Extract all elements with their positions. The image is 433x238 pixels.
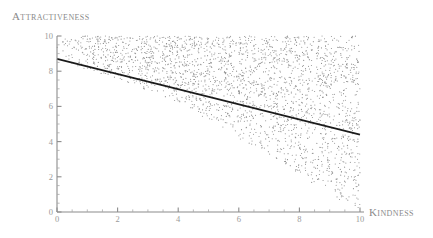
plot-canvas: Attractiveness 02468100246810 Kindness <box>0 0 433 238</box>
y-tick-label: 0 <box>49 207 53 217</box>
x-tick-label: 0 <box>55 214 59 224</box>
scatter-plot-figure: Attractiveness 02468100246810 Kindness <box>0 0 433 238</box>
scatter-points <box>57 35 361 208</box>
x-tick-label: 4 <box>176 214 181 224</box>
x-tick-label: 6 <box>237 214 241 224</box>
y-tick-label: 10 <box>45 31 54 41</box>
regression-line <box>57 59 360 135</box>
x-tick-label: 8 <box>297 214 301 224</box>
y-axis-title: Attractiveness <box>12 10 90 22</box>
x-axis-title: Kindness <box>369 206 414 218</box>
x-tick-label: 10 <box>356 214 365 224</box>
y-tick-label: 2 <box>49 172 53 182</box>
x-tick-label: 2 <box>115 214 119 224</box>
axis-tick-labels: 02468100246810 <box>45 31 365 224</box>
y-tick-label: 6 <box>49 101 53 111</box>
y-tick-label: 8 <box>49 66 53 76</box>
y-tick-label: 4 <box>49 137 54 147</box>
